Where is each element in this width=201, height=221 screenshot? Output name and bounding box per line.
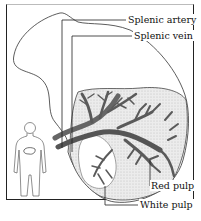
human-body-inset bbox=[14, 123, 46, 197]
label-splenic-artery: Splenic artery bbox=[127, 14, 197, 25]
label-white-pulp: White pulp bbox=[139, 199, 194, 210]
label-red-pulp: Red pulp bbox=[150, 180, 195, 191]
spleen-location-marker bbox=[24, 148, 35, 155]
label-splenic-vein: Splenic vein bbox=[133, 30, 194, 41]
